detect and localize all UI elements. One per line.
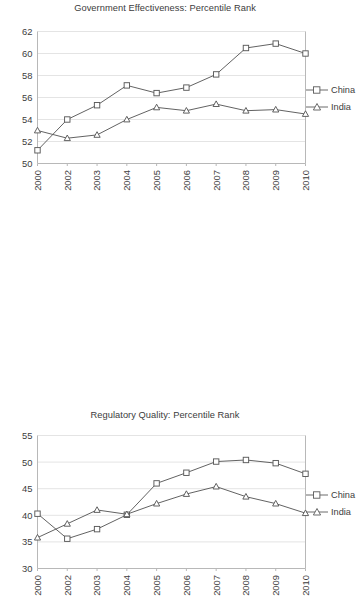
y-axis-tick-label: 40	[22, 510, 32, 521]
y-axis-tick-label: 60	[22, 48, 32, 59]
data-point-marker-triangle	[94, 132, 100, 138]
data-point-marker-triangle	[64, 521, 70, 527]
y-axis-tick-label: 50	[22, 457, 32, 468]
legend-label: China	[331, 490, 355, 500]
data-point-marker-square	[154, 90, 159, 95]
y-axis-tick-label: 45	[22, 483, 32, 494]
data-point-marker-square	[213, 72, 218, 77]
x-axis-tick-label: 2000	[32, 170, 43, 191]
x-axis-tick-label: 2007	[211, 575, 222, 596]
data-point-marker-square	[243, 45, 248, 50]
series-line-india	[38, 487, 306, 538]
data-point-marker-square	[65, 117, 70, 122]
x-axis-tick-label: 2010	[300, 575, 311, 596]
data-point-marker-square	[35, 148, 40, 153]
data-point-marker-square	[94, 103, 99, 108]
data-point-marker-square	[243, 457, 248, 462]
x-axis-tick-label: 2004	[121, 170, 132, 191]
x-axis-tick-label: 2003	[91, 170, 102, 191]
legend-item-china[interactable]: China	[306, 489, 355, 501]
legend-marker-triangle-icon	[306, 102, 328, 112]
data-point-marker-square	[35, 511, 40, 516]
data-point-marker-triangle	[154, 104, 160, 110]
x-axis-tick-label: 2002	[62, 170, 73, 191]
legend-label: India	[331, 507, 351, 517]
x-axis-tick-label: 2006	[181, 575, 192, 596]
data-point-marker-square	[303, 471, 308, 476]
legend-marker-square-icon	[306, 85, 328, 95]
x-axis-tick-label: 2008	[240, 170, 251, 191]
x-axis-tick-label: 2009	[270, 170, 281, 191]
y-axis-tick-label: 54	[22, 114, 32, 125]
data-point-marker-triangle	[34, 127, 40, 133]
chart-regulatory-quality: Regulatory Quality: Percentile Rank 3035…	[0, 204, 361, 408]
y-axis-tick-label: 55	[22, 430, 32, 441]
x-axis-tick-label: 2002	[62, 575, 73, 596]
data-point-marker-square	[124, 83, 129, 88]
legend: China India	[306, 84, 361, 120]
x-axis-tick-label: 2005	[151, 170, 162, 191]
data-point-marker-square	[213, 459, 218, 464]
series-line-india	[38, 104, 306, 138]
data-point-marker-triangle	[213, 483, 219, 489]
y-axis-tick-label: 35	[22, 536, 32, 547]
y-axis-tick-label: 30	[22, 563, 32, 574]
x-axis-tick-label: 2003	[91, 575, 102, 596]
y-axis-tick-label: 56	[22, 92, 32, 103]
y-axis-tick-label: 58	[22, 70, 32, 81]
series-line-china	[38, 460, 306, 539]
y-axis-tick-label: 52	[22, 136, 32, 147]
x-axis-tick-label: 2004	[121, 575, 132, 596]
legend-label: China	[331, 85, 355, 95]
chart-government-effectiveness: Government Effectiveness: Percentile Ran…	[0, 0, 361, 204]
legend: China India	[306, 489, 361, 525]
data-point-marker-square	[65, 536, 70, 541]
legend-marker-square-icon	[306, 490, 328, 500]
y-axis-tick-label: 62	[22, 26, 32, 37]
y-axis-tick-label: 50	[22, 158, 32, 169]
data-point-marker-square	[273, 41, 278, 46]
x-axis-tick-label: 2000	[32, 575, 43, 596]
data-point-marker-triangle	[34, 534, 40, 540]
x-axis-tick-label: 2007	[211, 170, 222, 191]
x-axis-tick-label: 2009	[270, 575, 281, 596]
data-point-marker-square	[154, 481, 159, 486]
legend-label: India	[331, 102, 351, 112]
legend-item-india[interactable]: India	[306, 101, 351, 113]
data-point-marker-square	[184, 470, 189, 475]
data-point-marker-square	[184, 85, 189, 90]
legend-item-india[interactable]: India	[306, 506, 351, 518]
data-point-marker-triangle	[94, 507, 100, 513]
data-point-marker-triangle	[213, 101, 219, 107]
legend-marker-triangle-icon	[306, 507, 328, 517]
x-axis-tick-label: 2008	[240, 575, 251, 596]
data-point-marker-square	[273, 460, 278, 465]
data-point-marker-triangle	[273, 106, 279, 112]
x-axis-tick-label: 2006	[181, 170, 192, 191]
data-point-marker-square	[303, 51, 308, 56]
x-axis-tick-label: 2010	[300, 170, 311, 191]
x-axis-tick-label: 2005	[151, 575, 162, 596]
legend-item-china[interactable]: China	[306, 84, 355, 96]
data-point-marker-square	[94, 526, 99, 531]
series-line-china	[38, 44, 306, 151]
